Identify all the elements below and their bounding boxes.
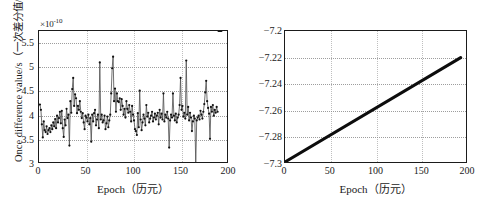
data-point-marker (205, 80, 207, 82)
data-point-marker (92, 120, 94, 122)
data-point-marker (55, 127, 57, 129)
data-point-marker (42, 136, 44, 138)
data-point-marker (179, 77, 181, 79)
data-point-marker (198, 115, 200, 117)
data-point-marker (156, 115, 158, 117)
data-point-marker (102, 121, 104, 123)
data-point-marker (115, 111, 117, 113)
data-point-marker (56, 115, 58, 117)
data-point-marker (182, 116, 184, 118)
data-point-marker (72, 77, 74, 79)
data-point-marker (59, 111, 61, 113)
y-axis-title-left: Once difference value/s（一次差分值/秒） (10, 0, 25, 162)
data-point-marker (199, 110, 201, 112)
data-point-marker (100, 118, 102, 120)
data-point-marker (107, 126, 109, 128)
data-point-marker (66, 117, 68, 119)
data-point-marker (136, 134, 138, 136)
x-tick-label: 100 (368, 165, 383, 176)
data-point-marker (158, 123, 160, 125)
data-point-marker (129, 111, 131, 113)
data-point-marker (141, 121, 143, 123)
data-point-marker (47, 129, 49, 131)
data-point-marker (103, 115, 105, 117)
data-point-marker (81, 117, 83, 119)
data-point-marker (176, 121, 178, 123)
data-point-marker (192, 120, 194, 122)
data-point-marker (87, 114, 89, 116)
data-point-marker (104, 128, 106, 130)
data-point-marker (175, 113, 177, 115)
data-point-marker (75, 97, 77, 99)
data-point-marker (105, 122, 107, 124)
x-tick-label: 150 (173, 165, 188, 176)
data-point-marker (122, 114, 124, 116)
y-tick-label: 4 (29, 109, 34, 120)
y-tick-label: 3 (29, 158, 34, 169)
data-point-marker (135, 130, 137, 132)
data-point-marker (49, 131, 51, 133)
data-point-marker (214, 109, 216, 111)
data-point-marker (106, 116, 108, 118)
data-point-marker (163, 120, 165, 122)
y-axis-exponent-left: ×10-10 (40, 17, 62, 29)
plot-area-left (38, 30, 228, 163)
data-point-marker (40, 109, 42, 111)
data-point-marker (130, 120, 132, 122)
data-point-marker (150, 115, 152, 117)
data-point-marker (52, 121, 54, 123)
x-axis-title-right: Epoch（历元） (284, 180, 467, 196)
data-point-marker (177, 116, 179, 118)
data-point-marker (191, 130, 193, 132)
data-point-marker (178, 114, 180, 116)
data-point-marker (155, 118, 157, 120)
y-tick-label: 5 (29, 61, 34, 72)
data-point-marker (122, 105, 124, 107)
data-point-marker (88, 123, 90, 125)
y-tick-label: −7.22 (259, 51, 282, 62)
data-point-marker (162, 92, 164, 94)
series-once-difference (39, 31, 228, 163)
data-point-marker (190, 116, 192, 118)
y-axis-exponent-base-left: ×10 (40, 19, 53, 29)
data-point-marker (57, 121, 59, 123)
data-point-marker (95, 124, 97, 126)
data-point-marker (50, 124, 52, 126)
data-point-marker (164, 114, 166, 116)
x-axis-title-left: Epoch（历元） (38, 180, 228, 196)
data-point-marker (180, 109, 182, 111)
data-point-marker (89, 117, 91, 119)
data-point-marker (153, 116, 155, 118)
x-tick-label: 0 (36, 165, 41, 176)
data-point-marker (80, 111, 82, 113)
data-point-marker (84, 128, 86, 130)
data-point-marker (144, 124, 146, 126)
data-point-marker (189, 112, 191, 114)
data-point-marker (58, 117, 60, 119)
data-point-marker (146, 116, 148, 118)
data-point-marker (91, 114, 93, 116)
x-axis-ticks-left: 050100150200 (38, 165, 228, 179)
data-point-marker (196, 119, 198, 121)
chart-panel-left: ×10-10 33.544.555.5 050100150200 Epoch（历… (0, 0, 241, 222)
data-point-marker (171, 116, 173, 118)
data-point-marker (212, 104, 214, 106)
data-point-marker (83, 121, 85, 123)
data-point-marker (127, 112, 129, 114)
data-point-marker (109, 114, 111, 116)
data-point-marker (84, 115, 86, 117)
y-tick-label: −7.28 (259, 131, 282, 142)
data-point-marker (206, 100, 208, 102)
data-point-marker (90, 141, 92, 143)
data-point-marker (118, 101, 120, 103)
data-point-marker (46, 133, 48, 135)
data-point-marker (53, 125, 55, 127)
data-point-marker (39, 103, 41, 105)
data-point-marker (157, 112, 159, 114)
data-point-marker (76, 112, 78, 114)
data-point-marker (93, 112, 95, 114)
y-tick-label: −7.26 (259, 104, 282, 115)
data-point-marker (98, 127, 100, 129)
data-point-marker (120, 109, 122, 111)
data-point-marker (137, 112, 139, 114)
